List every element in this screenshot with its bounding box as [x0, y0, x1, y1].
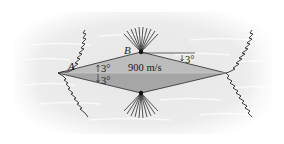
label-rear-angle: 3°	[185, 54, 194, 65]
diamond-airfoil-diagram: A B 900 m/s 3° 3° 3°	[0, 0, 284, 144]
label-lower-half-angle: 3°	[101, 75, 110, 86]
label-point-a: A	[67, 60, 75, 72]
label-speed: 900 m/s	[128, 62, 162, 73]
label-upper-half-angle: 3°	[101, 63, 110, 74]
label-point-b: B	[124, 44, 131, 56]
diagram-canvas: A B 900 m/s 3° 3° 3°	[0, 0, 284, 144]
